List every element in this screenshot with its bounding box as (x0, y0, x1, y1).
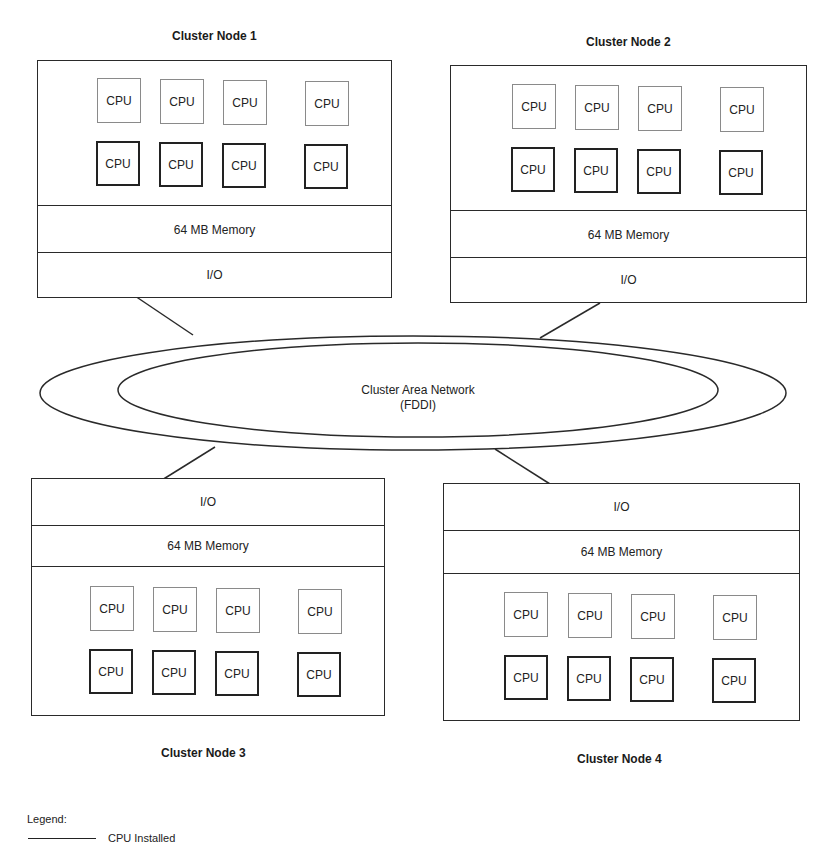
cpu-installed: CPU (719, 150, 763, 195)
cpu-slot: CPU (90, 586, 134, 631)
cpu-installed: CPU (504, 655, 548, 700)
cpu-installed: CPU (215, 651, 259, 696)
cpu-slot: CPU (638, 86, 682, 131)
cpu-slot: CPU (298, 589, 342, 634)
cluster-node-4: I/O 64 MB Memory CPU CPU CPU CPU CPU CPU… (443, 483, 800, 721)
cpu-slot: CPU (512, 84, 556, 129)
cpu-installed: CPU (152, 650, 196, 695)
node-4-title: Cluster Node 4 (577, 752, 662, 766)
cpu-slot: CPU (504, 592, 548, 637)
memory-band: 64 MB Memory (38, 205, 391, 253)
memory-band: 64 MB Memory (444, 530, 799, 574)
cpu-slot: CPU (305, 81, 349, 126)
cpu-slot: CPU (568, 593, 612, 638)
cpu-slot: CPU (160, 79, 204, 124)
io-band: I/O (451, 257, 806, 302)
cpu-slot: CPU (97, 78, 141, 123)
cpu-slot: CPU (153, 587, 197, 632)
memory-band: 64 MB Memory (451, 210, 806, 258)
io-band: I/O (32, 479, 384, 526)
cpu-installed: CPU (304, 144, 348, 189)
io-band: I/O (444, 484, 799, 531)
memory-band: 64 MB Memory (32, 525, 384, 567)
network-name: Cluster Area Network (318, 383, 518, 398)
cpu-installed: CPU (297, 652, 341, 697)
legend-title: Legend: (27, 813, 67, 825)
cpu-slot: CPU (575, 85, 619, 130)
cpu-slot: CPU (631, 594, 675, 639)
legend-installed-line (28, 838, 96, 839)
cpu-slot: CPU (223, 80, 267, 125)
legend-installed-label: CPU Installed (108, 832, 175, 842)
node-1-title: Cluster Node 1 (172, 29, 257, 43)
cpu-slot: CPU (720, 87, 764, 132)
cluster-node-2: CPU CPU CPU CPU CPU CPU CPU CPU 64 MB Me… (450, 65, 807, 303)
cpu-slot: CPU (216, 588, 260, 633)
cpu-installed: CPU (511, 147, 555, 192)
cpu-installed: CPU (567, 656, 611, 701)
io-band: I/O (38, 252, 391, 297)
cpu-installed: CPU (574, 148, 618, 193)
network-label: Cluster Area Network (FDDI) (318, 383, 518, 413)
node-3-title: Cluster Node 3 (161, 746, 246, 760)
cluster-node-1: CPU CPU CPU CPU CPU CPU CPU CPU 64 MB Me… (37, 60, 392, 298)
cpu-installed: CPU (637, 149, 681, 194)
cpu-installed: CPU (630, 657, 674, 702)
cpu-installed: CPU (159, 142, 203, 187)
cpu-installed: CPU (96, 141, 140, 186)
cpu-slot: CPU (713, 595, 757, 640)
cpu-installed: CPU (222, 143, 266, 188)
network-type: (FDDI) (318, 398, 518, 413)
cpu-installed: CPU (712, 658, 756, 703)
node-2-title: Cluster Node 2 (586, 35, 671, 49)
cluster-node-3: I/O 64 MB Memory CPU CPU CPU CPU CPU CPU… (31, 478, 385, 716)
cpu-installed: CPU (89, 649, 133, 694)
